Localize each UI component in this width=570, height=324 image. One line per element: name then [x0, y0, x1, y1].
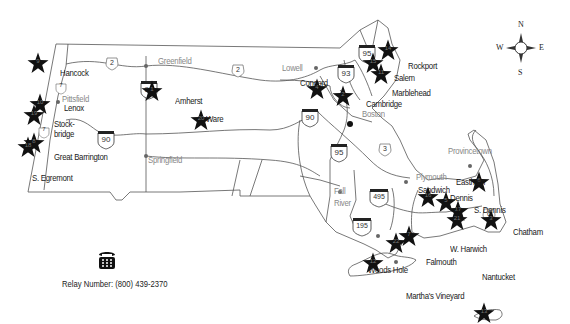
- label-nantucket: Nantucket: [482, 271, 515, 282]
- star-number: 1: [141, 86, 163, 92]
- label-marthas-vineyard: Martha's Vineyard: [406, 290, 464, 301]
- label-plymouth: Plymouth: [416, 171, 447, 182]
- location-star-w-harwich[interactable]: 21: [446, 209, 468, 231]
- interstate-90-shield-west: 90: [97, 130, 115, 150]
- label-ware: Ware: [206, 113, 223, 124]
- telephone-icon: [96, 250, 118, 270]
- compass-n: N: [518, 20, 524, 29]
- label-concord: Concord: [300, 77, 328, 88]
- compass-w: W: [496, 43, 504, 52]
- compass-s: S: [518, 68, 522, 77]
- label-springfield: Springfield: [148, 154, 182, 165]
- label-eastham: Eastham: [456, 176, 485, 187]
- route-2-shield-east: 2: [231, 64, 245, 78]
- label-sandwich: Sandwich: [418, 184, 450, 195]
- label-marblehead: Marblehead: [392, 87, 431, 98]
- star-number: 14: [377, 45, 399, 51]
- label-salem: Salem: [394, 72, 415, 83]
- label-dennis: Dennis: [450, 192, 473, 203]
- star-number: 3: [480, 215, 502, 221]
- interstate-495-shield: 495: [369, 188, 389, 208]
- label-stockbridge-2: bridge: [54, 128, 74, 139]
- interstate-195-shield: 195: [352, 217, 372, 237]
- label-lenox: Lenox: [64, 102, 84, 113]
- relay-number: Relay Number: (800) 439-2370: [62, 279, 167, 289]
- label-s-egremont: S. Egremont: [32, 172, 73, 183]
- star-number: 21: [446, 215, 468, 221]
- label-s-dennis: S. Dennis: [474, 204, 506, 215]
- route-2-shield-west: 2: [105, 57, 119, 71]
- label-great-barrington: Great Barrington: [54, 151, 108, 162]
- label-chatham: Chatham: [513, 226, 543, 237]
- interstate-93-shield: 93: [337, 64, 355, 84]
- location-star-amherst[interactable]: 1: [141, 80, 163, 102]
- compass-rose: N S W E: [498, 18, 544, 78]
- star-number: 13: [473, 308, 495, 314]
- location-star-woods-hole[interactable]: 22: [385, 232, 407, 254]
- label-woods-hole: Woods Hole: [368, 264, 408, 275]
- star-number: 2: [332, 91, 354, 97]
- location-star-cambridge[interactable]: 2: [332, 85, 354, 107]
- label-provincetown: Provincetown: [448, 145, 492, 156]
- label-boston: Boston: [362, 108, 385, 119]
- location-star-salem[interactable]: 15: [362, 52, 384, 74]
- interstate-95-shield-south: 95: [330, 143, 348, 163]
- star-number: 9: [27, 58, 49, 64]
- label-rockport: Rockport: [408, 60, 437, 71]
- label-fall: Fall: [334, 185, 346, 196]
- label-falmouth: Falmouth: [426, 256, 457, 267]
- label-greenfield: Greenfield: [158, 55, 191, 66]
- location-star-nantucket[interactable]: 13: [473, 302, 495, 324]
- star-number: 18: [17, 142, 39, 148]
- route-7-shield-north: 7: [55, 81, 67, 93]
- compass-e: E: [539, 43, 544, 52]
- location-star-stockbridge[interactable]: 19: [23, 104, 45, 126]
- label-amherst: Amherst: [175, 95, 202, 106]
- route-3-shield: 3: [378, 143, 392, 157]
- interstate-90-shield-east: 90: [301, 108, 319, 128]
- location-star-s-egremont[interactable]: 18: [17, 136, 39, 158]
- star-number: 15: [362, 58, 384, 64]
- label-hancock: Hancock: [60, 67, 89, 78]
- label-w-harwich: W. Harwich: [450, 243, 487, 254]
- star-number: 22: [385, 238, 407, 244]
- label-river: River: [334, 197, 351, 208]
- label-lowell: Lowell: [282, 62, 303, 73]
- location-star-hancock[interactable]: 9: [27, 52, 49, 74]
- star-number: 19: [23, 110, 45, 116]
